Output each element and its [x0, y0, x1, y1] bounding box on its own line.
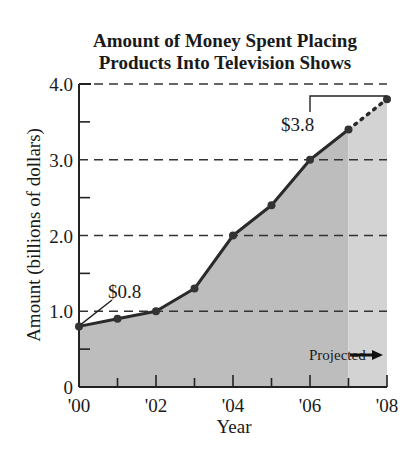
data-point [345, 125, 353, 133]
x-tick-label: '06 [299, 395, 321, 416]
x-tick-label: '02 [145, 395, 167, 416]
y-tick-label: 1.0 [49, 301, 73, 322]
data-point [268, 201, 276, 209]
data-point [152, 307, 160, 315]
annotation-start-label: $0.8 [108, 281, 141, 302]
data-point [114, 315, 122, 323]
y-tick-label: 3.0 [49, 150, 73, 171]
x-tick-label: '08 [376, 395, 398, 416]
x-tick-label: '00 [68, 395, 90, 416]
projected-area [349, 99, 388, 387]
chart-plot: 01.02.03.04.0'00'02'04'06'08 $0.8$3.8Pro… [0, 0, 415, 454]
area-fills [79, 99, 387, 387]
y-axis-label: Amount (billions of dollars) [23, 128, 45, 342]
x-tick-label: '04 [222, 395, 245, 416]
annotation-end-label: $3.8 [281, 114, 314, 135]
y-tick-label: 4.0 [49, 74, 73, 95]
data-point [191, 285, 199, 293]
x-axis-label: Year [216, 416, 252, 437]
data-point [229, 232, 237, 240]
data-point [306, 156, 314, 164]
y-tick-label: 2.0 [49, 226, 73, 247]
